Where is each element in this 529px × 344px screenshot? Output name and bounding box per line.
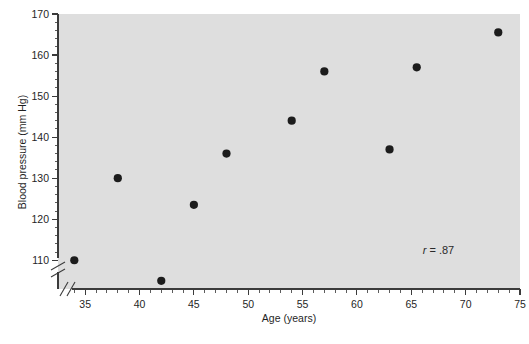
data-point xyxy=(157,277,165,285)
y-tick-label: 110 xyxy=(32,254,49,266)
y-tick-label: 150 xyxy=(31,90,49,102)
correlation-value: = .87 xyxy=(426,244,454,256)
y-tick-label: 170 xyxy=(31,8,49,20)
data-point xyxy=(70,256,78,264)
y-axis-title: Blood pressure (mm Hg) xyxy=(16,95,28,209)
y-tick-label: 140 xyxy=(31,131,49,143)
scatter-plot-figure: 110120130140150160170 354045505560657075… xyxy=(0,0,529,344)
x-tick-label: 45 xyxy=(188,298,200,310)
x-axis-title: Age (years) xyxy=(262,312,316,324)
data-point xyxy=(413,63,421,71)
chart-canvas: 110120130140150160170 354045505560657075… xyxy=(0,0,529,344)
data-point xyxy=(385,145,393,153)
y-tick-label: 160 xyxy=(31,49,49,61)
x-tick-label: 50 xyxy=(242,298,254,310)
x-tick-label: 35 xyxy=(79,298,91,310)
correlation-annotation: r = .87 xyxy=(423,244,455,256)
x-tick-label: 70 xyxy=(460,298,472,310)
x-tick-label: 65 xyxy=(405,298,417,310)
data-point xyxy=(190,201,198,209)
x-tick-label: 55 xyxy=(297,298,309,310)
x-tick-label: 60 xyxy=(351,298,363,310)
data-point xyxy=(222,149,230,157)
data-point xyxy=(288,117,296,125)
data-point xyxy=(320,67,328,75)
x-tick-label: 75 xyxy=(514,298,526,310)
data-point xyxy=(114,174,122,182)
data-point xyxy=(494,28,502,36)
x-tick-label: 40 xyxy=(134,298,146,310)
y-tick-label: 130 xyxy=(31,172,49,184)
y-tick-label: 120 xyxy=(31,213,49,225)
